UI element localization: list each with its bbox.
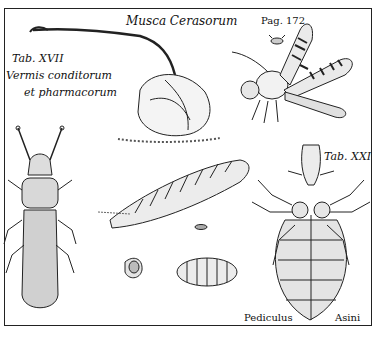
louse xyxy=(252,145,370,320)
caption-left-line2: et pharmacorum xyxy=(24,86,117,99)
cherry-with-stalk xyxy=(30,27,220,142)
plate-title: Musca Cerasorum xyxy=(126,14,237,28)
pupa xyxy=(177,258,237,286)
small-mite xyxy=(195,225,207,230)
fly-small xyxy=(269,35,285,44)
table-label-left: Tab. XVII xyxy=(12,52,64,65)
larva xyxy=(98,160,249,228)
page-reference: Pag. 172 xyxy=(261,15,305,26)
fly-large xyxy=(232,24,352,123)
caption-bottom-left: Pediculus xyxy=(244,312,293,323)
caption-left-line1: Vermis conditorum xyxy=(6,69,112,82)
pupa-case xyxy=(125,258,142,277)
caption-bottom-right: Asini xyxy=(335,312,360,323)
engraving-illustration xyxy=(0,0,378,337)
table-label-right: Tab. XXI xyxy=(324,150,371,163)
beetle xyxy=(4,126,76,308)
